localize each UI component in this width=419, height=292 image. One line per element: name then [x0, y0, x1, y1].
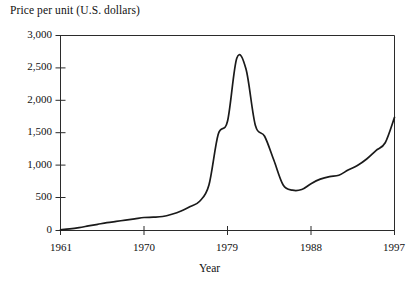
ytick-label-0: 0: [8, 223, 52, 235]
xtick-label-1979: 1979: [206, 241, 248, 253]
xtick-label-1997: 1997: [373, 241, 415, 253]
xtick-label-1961: 1961: [40, 241, 82, 253]
ytick-label-2000: 2,000: [8, 93, 52, 105]
ytick-label-1500: 1,500: [8, 125, 52, 137]
ytick-label-3000: 3,000: [8, 28, 52, 40]
axis-frame: [61, 36, 395, 231]
chart-figure: Price per unit (U.S. dollars) 3,000 2,50…: [0, 0, 419, 292]
price-per-unit-line: [61, 55, 395, 230]
ytick-label-1000: 1,000: [8, 158, 52, 170]
ytick-label-2500: 2,500: [8, 60, 52, 72]
ytick-label-500: 500: [8, 190, 52, 202]
x-axis-label: Year: [0, 262, 419, 274]
xtick-label-1988: 1988: [290, 241, 332, 253]
xtick-label-1970: 1970: [123, 241, 165, 253]
